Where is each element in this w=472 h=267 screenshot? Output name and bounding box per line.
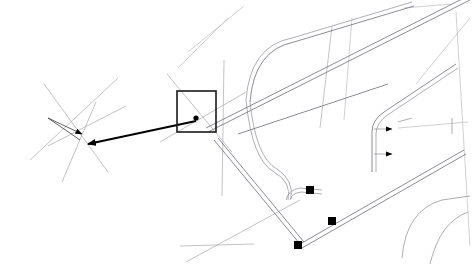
selection-center-point[interactable] [193,115,198,120]
cad-drawing-svg[interactable] [0,0,472,267]
vertex-marker-upper[interactable] [306,186,314,194]
vertex-marker-middle[interactable] [328,217,336,225]
cad-drawing-canvas[interactable] [0,0,472,267]
vertex-marker-lower[interactable] [294,241,302,249]
